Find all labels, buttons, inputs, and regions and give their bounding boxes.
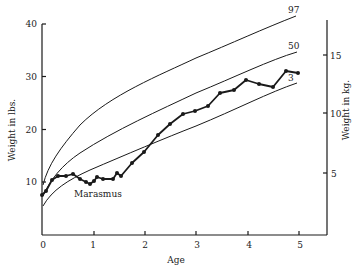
x-axis-title: Age (166, 255, 185, 265)
marasmus-line (42, 71, 298, 195)
y-tick-10: 10 (26, 177, 38, 187)
right-tick-15: 15 (330, 51, 342, 61)
right-tick-10: 10 (330, 109, 342, 119)
x-tick-1: 1 (90, 240, 96, 250)
growth-chart: 40 30 20 10 0 1 2 3 4 5 15 10 5 Weight i… (0, 0, 361, 269)
x-tick-labels: 0 1 2 3 4 5 (40, 240, 303, 250)
label-marasmus: Marasmus (74, 189, 122, 199)
x-tick-4: 4 (246, 240, 252, 250)
x-tick-5: 5 (297, 240, 303, 250)
marasmus-markers (40, 69, 300, 197)
x-tick-2: 2 (142, 240, 148, 250)
marasmus-series (40, 69, 300, 197)
y-tick-30: 30 (26, 72, 38, 82)
curve-3rd-percentile (43, 83, 297, 206)
y-axis-title: Weight in lbs. (7, 99, 17, 162)
y-tick-20: 20 (26, 125, 38, 135)
x-tick-0: 0 (40, 240, 46, 250)
right-tick-5: 5 (331, 169, 337, 179)
y-tick-labels: 40 30 20 10 (26, 19, 38, 187)
right-axis-title: Weight in kg. (341, 80, 351, 141)
label-3: 3 (288, 73, 294, 83)
label-50: 50 (288, 41, 300, 51)
right-tick-labels: 15 10 5 (330, 51, 342, 179)
label-97: 97 (288, 5, 300, 15)
curve-97th-percentile (43, 16, 296, 185)
y-tick-40: 40 (26, 19, 38, 29)
x-tick-3: 3 (194, 240, 200, 250)
axes (42, 20, 327, 235)
